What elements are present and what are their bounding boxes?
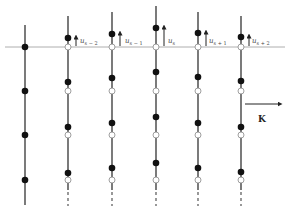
equilibrium-position-circle [153, 88, 159, 94]
atom-dot [65, 35, 72, 42]
label-u-s-plus-2: us + 2 [252, 37, 270, 46]
atom-dot [153, 25, 160, 32]
atom-dot [195, 165, 202, 172]
atom-dot [22, 132, 29, 139]
lattice-diagram [0, 0, 289, 217]
atom-dot [109, 75, 116, 82]
equilibrium-position-circle [195, 177, 201, 183]
label-u-s: us [168, 37, 175, 46]
equilibrium-position-circle [195, 132, 201, 138]
equilibrium-position-circle [65, 132, 71, 138]
atom-dot [153, 160, 160, 167]
atom-dot [238, 34, 245, 41]
equilibrium-position-circle [109, 177, 115, 183]
label-u-s-minus-1: us − 1 [125, 37, 143, 46]
equilibrium-position-circle [65, 44, 71, 50]
equilibrium-position-circle [238, 88, 244, 94]
atom-dot [65, 124, 72, 131]
atom-dot [238, 124, 245, 131]
atom-dot [65, 170, 72, 177]
equilibrium-position-circle [153, 132, 159, 138]
atom-dot [22, 44, 29, 51]
atom-dot [153, 114, 160, 121]
label-u-s-plus-1: us + 1 [209, 37, 227, 46]
atom-dot [65, 79, 72, 86]
atom-dot [109, 165, 116, 172]
atom-dot [22, 177, 29, 184]
atom-dot [109, 31, 116, 38]
atom-dot [238, 78, 245, 85]
atom-dot [195, 120, 202, 127]
atom-dot [195, 74, 202, 81]
atom-dot [22, 88, 29, 95]
atom-dot [109, 120, 116, 127]
equilibrium-position-circle [238, 44, 244, 50]
wave-vector-label: K [258, 114, 266, 124]
atom-dot [238, 169, 245, 176]
atom-dot [195, 30, 202, 37]
equilibrium-position-circle [238, 132, 244, 138]
equilibrium-position-circle [238, 177, 244, 183]
atom-dot [153, 69, 160, 76]
equilibrium-position-circle [153, 44, 159, 50]
label-u-s-minus-2: us − 2 [80, 37, 98, 46]
equilibrium-position-circle [109, 44, 115, 50]
equilibrium-position-circle [109, 88, 115, 94]
equilibrium-position-circle [109, 132, 115, 138]
equilibrium-position-circle [65, 177, 71, 183]
equilibrium-position-circle [153, 177, 159, 183]
equilibrium-position-circle [195, 44, 201, 50]
equilibrium-position-circle [195, 88, 201, 94]
equilibrium-position-circle [65, 88, 71, 94]
